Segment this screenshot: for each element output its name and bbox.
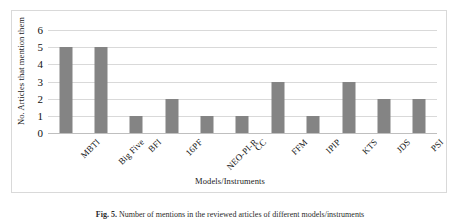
bar-slot <box>331 30 366 133</box>
figure-caption: Fig. 5. Number of mentions in the review… <box>0 210 460 219</box>
bar[interactable] <box>165 99 178 133</box>
y-tick-label-0: 0 <box>21 133 43 134</box>
bar-slot <box>296 30 331 133</box>
bar[interactable] <box>95 47 108 133</box>
y-tick-label-2: 2 <box>21 99 43 100</box>
x-tick-label: Big Five <box>116 137 146 167</box>
bar-slot <box>83 30 118 133</box>
bar[interactable] <box>307 116 320 133</box>
y-tick-label-5: 5 <box>21 47 43 48</box>
y-tick-label-3: 3 <box>21 82 43 83</box>
bars-layer <box>48 30 437 133</box>
bar-slot <box>48 30 83 133</box>
y-tick-label-6: 6 <box>21 30 43 31</box>
x-tick-label: KTS <box>360 137 379 156</box>
bar[interactable] <box>236 116 249 133</box>
x-tick-label: 16PF <box>183 137 204 158</box>
x-tick-label: JDS <box>394 137 412 155</box>
bar[interactable] <box>201 116 214 133</box>
x-tick-label: MBTI <box>78 137 101 160</box>
bar[interactable] <box>130 116 143 133</box>
plot-area: 0123456 <box>48 30 437 133</box>
y-tick-label-1: 1 <box>21 116 43 117</box>
x-tick-label: BFI <box>147 137 164 154</box>
x-axis-title: Models/Instruments <box>0 176 460 186</box>
figure-root: No. Articles that mention them 0123456 M… <box>0 0 460 222</box>
bar-slot <box>225 30 260 133</box>
y-tick-label-4: 4 <box>21 64 43 65</box>
bar[interactable] <box>413 99 426 133</box>
bar[interactable] <box>271 82 284 134</box>
bar-slot <box>366 30 401 133</box>
x-tick-label: FFM <box>289 137 309 157</box>
x-tick-labels: MBTIBig FiveBFI16PFNEO-PI-RCCFFMIPIPKTSJ… <box>48 134 437 174</box>
x-tick-label: IPIP <box>324 137 343 156</box>
bar-slot <box>260 30 295 133</box>
bar-slot <box>189 30 224 133</box>
bar-slot <box>402 30 437 133</box>
bar[interactable] <box>342 82 355 134</box>
caption-label: Fig. 5. <box>96 210 117 219</box>
bar[interactable] <box>377 99 390 133</box>
bar[interactable] <box>59 47 72 133</box>
bar-slot <box>119 30 154 133</box>
caption-text: Number of mentions in the reviewed artic… <box>119 210 364 219</box>
bar-slot <box>154 30 189 133</box>
